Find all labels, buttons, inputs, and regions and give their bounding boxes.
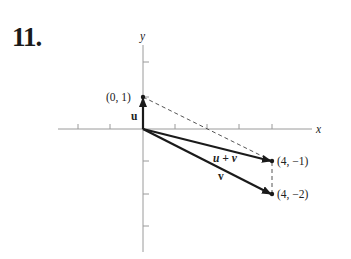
- vector-label-u: u: [131, 110, 138, 122]
- point-4-minus2: [270, 192, 274, 196]
- x-ticks: [78, 124, 272, 129]
- point-label-4-minus2: (4, −2): [277, 188, 309, 201]
- vector-u-plus-v: [143, 129, 271, 161]
- vector-v: [143, 129, 271, 194]
- vector-diagram: x y (0, 1) (4, −1) (4, −2) u u + v v: [0, 0, 351, 259]
- point-4-minus1: [270, 159, 274, 163]
- vector-label-u-plus-v: u + v: [213, 152, 238, 164]
- y-axis-label: y: [139, 30, 146, 43]
- y-ticks: [143, 62, 149, 226]
- point-0-1: [141, 95, 145, 99]
- vector-label-v: v: [218, 170, 224, 182]
- point-label-4-minus1: (4, −1): [277, 155, 309, 168]
- point-label-0-1: (0, 1): [106, 91, 131, 104]
- x-axis-label: x: [315, 123, 322, 135]
